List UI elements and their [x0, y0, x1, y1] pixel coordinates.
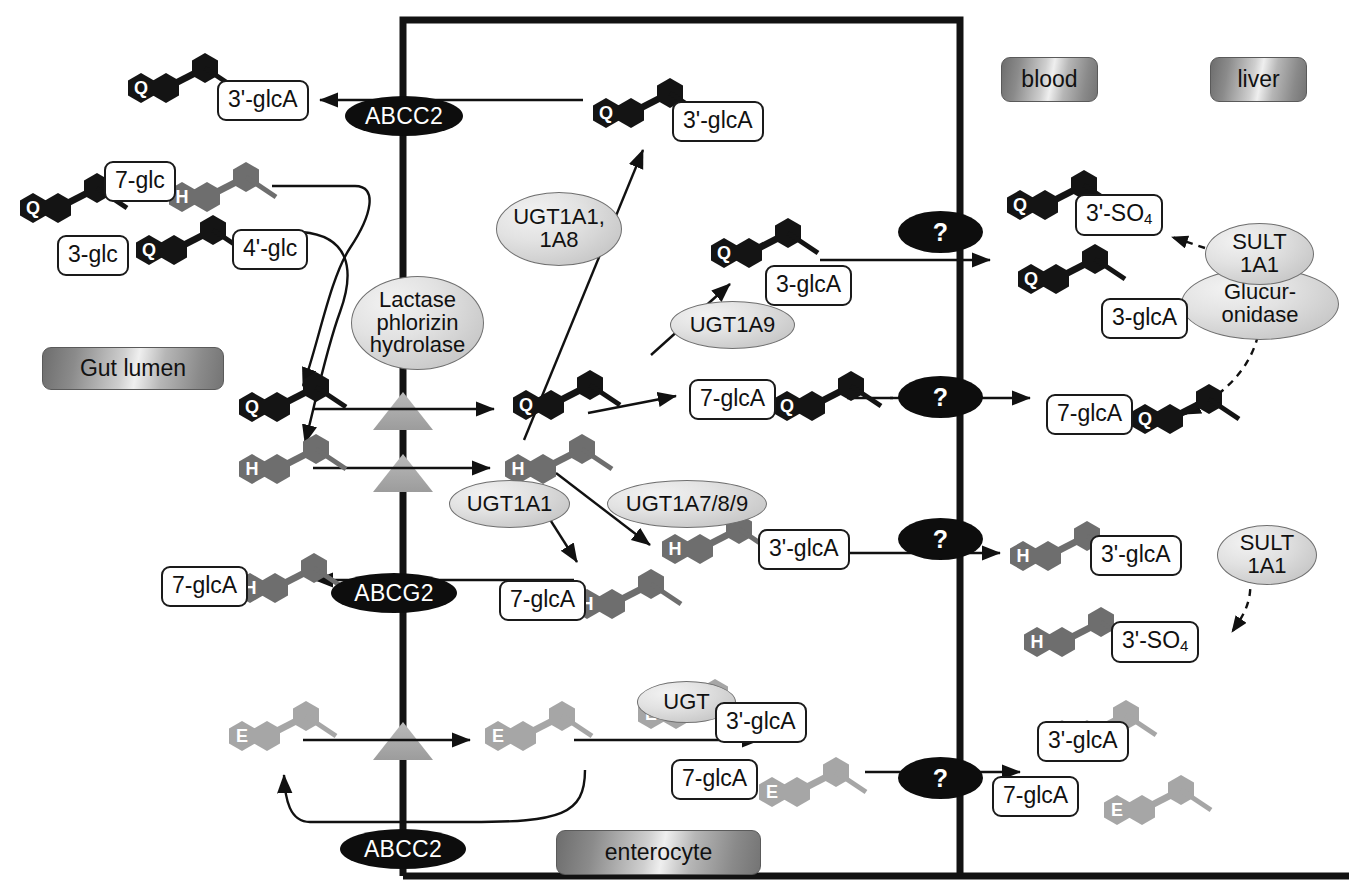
ring-C: [784, 777, 810, 807]
metabolite-label-q-3prime-so4-blood: 3'-SO4: [1075, 194, 1163, 236]
molecule-core-letter: Q: [134, 78, 148, 98]
molecule-core-letter: E: [1111, 800, 1123, 820]
zone-enterocyte: enterocyte: [556, 830, 761, 875]
ring-C: [599, 589, 625, 619]
enzyme-sult1a1-blood[interactable]: SULT 1A1: [1217, 525, 1317, 585]
transporter-unknown-hesperetin-3-glca[interactable]: ?: [898, 518, 983, 560]
molecule-core-letter: Q: [1138, 409, 1152, 429]
enzyme-label: SULT 1A1: [1240, 532, 1295, 577]
enzyme-label: SULT 1A1: [1232, 231, 1287, 276]
ring-C: [1049, 627, 1075, 657]
molecule-mol-h-aglycone-ent: H: [505, 434, 612, 484]
molecule-core-letter: E: [766, 782, 778, 802]
molecule-core-letter: Q: [519, 395, 533, 415]
enzyme-label: Lactase phlorizin hydrolase: [370, 289, 465, 357]
enzyme-label: Glucur- onidase: [1221, 281, 1298, 326]
metabolite-label-h-7-glca-ent: 7-glcA: [499, 580, 586, 621]
ring-C: [45, 193, 71, 223]
metabolite-label-e-3prime-glca-ent: 3'-glcA: [715, 702, 807, 743]
transporter-abcg2[interactable]: ABCG2: [331, 573, 457, 613]
ring-C: [799, 391, 825, 421]
enzyme-ugt1a1[interactable]: UGT1A1: [449, 480, 570, 528]
ring-C: [618, 98, 644, 128]
molecule-core-letter: Q: [780, 396, 794, 416]
molecule-mol-e-7glca-blood: E: [1104, 775, 1211, 825]
ring-C: [1032, 190, 1058, 220]
molecule-core-letter: H: [669, 539, 682, 559]
molecule-mol-h-7glc-lumen: H: [169, 162, 276, 212]
transporter-unknown-quercetin-sulfate[interactable]: ?: [898, 211, 983, 253]
metabolite-label-q-3prime-glca-lumen: 3'-glcA: [217, 80, 309, 121]
ring-C: [194, 182, 220, 212]
enzyme-ugt1a1-1a8[interactable]: UGT1A1, 1A8: [496, 192, 622, 266]
molecule-mol-q-aglycone-gut: Q: [239, 372, 346, 422]
ring-C: [264, 392, 290, 422]
molecule-core-letter: Q: [26, 198, 40, 218]
pathway-diagram: QQHQQHQQQHQHHHQQQHHEEEEEE Gut lumen ente…: [0, 0, 1349, 895]
molecule-mol-q-7glca-ent: Q: [774, 371, 881, 421]
molecule-core-letter: H: [246, 459, 259, 479]
enzyme-label: UGT1A1, 1A8: [513, 206, 605, 251]
enzyme-sult1a1-liver[interactable]: SULT 1A1: [1205, 223, 1314, 285]
metabolite-label-q-3-glca-blood: 3-glcA: [1101, 298, 1188, 339]
ring-C: [254, 721, 280, 751]
molecule-mol-q-aglycone-ent: Q: [513, 370, 620, 420]
molecule-layer: QQHQQHQQQHQHHHQQQHHEEEEEE: [20, 53, 1239, 825]
zone-liver: liver: [1210, 57, 1307, 102]
molecule-mol-h-aglycone-gut: H: [239, 434, 346, 484]
ring-C: [1043, 264, 1069, 294]
molecule-core-letter: Q: [245, 397, 259, 417]
molecule-core-letter: H: [176, 187, 189, 207]
zone-gut-lumen: Gut lumen: [42, 347, 224, 390]
ring-C: [687, 534, 713, 564]
ring-C: [153, 73, 179, 103]
molecule-core-letter: Q: [599, 103, 613, 123]
molecule-mol-e-aglycone-gut: E: [229, 701, 336, 751]
metabolite-label-h-3prime-glca-ent: 3'-glcA: [758, 529, 850, 570]
zone-blood: blood: [1001, 57, 1098, 102]
enzyme-label: UGT1A1: [467, 493, 553, 516]
molecule-mol-h-7glca-lumen: H: [237, 553, 344, 603]
molecule-core-letter: E: [236, 726, 248, 746]
molecule-mol-e-aglycone-ent: E: [485, 701, 592, 751]
molecule-core-letter: E: [492, 726, 504, 746]
transporter-unknown-quercetin-7-glca[interactable]: ?: [898, 376, 983, 418]
transporter-abcc2-apical[interactable]: ABCC2: [345, 96, 463, 136]
metabolite-label-e-7-glca-ent: 7-glcA: [671, 759, 758, 800]
molecule-core-letter: Q: [1013, 195, 1027, 215]
metabolite-label-h-3prime-glca-blood: 3'-glcA: [1090, 535, 1182, 576]
metabolite-label-q-7-glc: 7-glc: [104, 161, 176, 202]
metabolite-label-q-3-glca-ent: 3-glcA: [765, 265, 852, 306]
metabolite-label-q-7-glca-ent: 7-glcA: [689, 379, 776, 420]
ring-C: [1157, 404, 1183, 434]
ring-C: [264, 454, 290, 484]
metabolite-label-e-7-glca-blood: 7-glcA: [992, 776, 1079, 817]
metabolite-label-h-3prime-so4-blood: 3'-SO4: [1111, 621, 1199, 663]
metabolite-label-q-3-glc: 3-glc: [57, 235, 129, 276]
enzyme-lactase-phlorizin-hydrolase[interactable]: Lactase phlorizin hydrolase: [351, 276, 484, 370]
molecule-mol-h-7glca-ent: H: [574, 569, 681, 619]
enzyme-ugt1a9[interactable]: UGT1A9: [670, 301, 795, 349]
enzyme-label: UGT1A9: [690, 314, 776, 337]
transporter-abcc2-basal[interactable]: ABCC2: [340, 829, 466, 869]
enzyme-ugt1a7-8-9[interactable]: UGT1A7/8/9: [607, 480, 767, 528]
enzyme-label: UGT: [663, 691, 709, 714]
transporter-unknown-epicatechin-glca[interactable]: ?: [898, 757, 983, 799]
enzyme-label: UGT1A7/8/9: [626, 493, 748, 516]
molecule-core-letter: H: [1031, 632, 1044, 652]
ring-C: [1129, 795, 1155, 825]
ring-C: [262, 573, 288, 603]
molecule-mol-e-7glca-ent: E: [759, 757, 866, 807]
molecule-core-letter: H: [512, 459, 525, 479]
metabolite-label-q-3prime-glca-ent: 3'-glcA: [672, 101, 764, 142]
molecule-mol-q-3-glca-blood: Q: [1018, 244, 1125, 294]
label-subscript: 4: [1144, 210, 1152, 227]
metabolite-label-e-3prime-glca-blood: 3'-glcA: [1037, 721, 1129, 762]
molecule-core-letter: H: [1017, 546, 1030, 566]
ring-C: [510, 721, 536, 751]
molecule-core-letter: Q: [717, 243, 731, 263]
molecule-mol-q-4prime-glc-lumen: Q: [136, 215, 243, 265]
ring-C: [530, 454, 556, 484]
enterocyte-membrane: [0, 20, 1349, 876]
label-text: 3'-SO: [1122, 627, 1180, 653]
